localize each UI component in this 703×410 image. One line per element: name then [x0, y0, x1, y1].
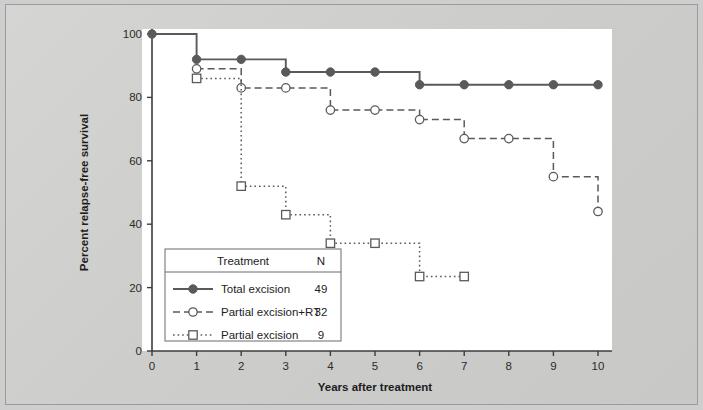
x-tick-label: 0 [149, 360, 155, 372]
legend-n-2: 9 [318, 329, 324, 341]
marker-open-circle [505, 134, 513, 142]
legend-n-0: 49 [315, 283, 328, 295]
marker-open-circle [594, 207, 602, 215]
x-tick-label: 8 [506, 360, 512, 372]
x-axis-title: Years after treatment [318, 381, 433, 393]
x-tick-label: 10 [592, 360, 605, 372]
marker-filled-circle [326, 68, 334, 76]
marker-open-square [371, 239, 379, 247]
marker-open-square [460, 272, 468, 280]
x-tick-label: 3 [283, 360, 289, 372]
legend-marker-filled-circle [189, 285, 197, 293]
x-tick-label: 6 [416, 360, 422, 372]
legend-marker-open-square [189, 331, 197, 339]
y-tick-label: 80 [129, 91, 142, 103]
x-tick-label: 5 [372, 360, 378, 372]
series-line-0 [152, 34, 598, 85]
marker-filled-circle [192, 55, 200, 63]
y-tick-label: 100 [123, 28, 142, 40]
x-tick-label: 9 [550, 360, 556, 372]
y-tick-label: 40 [129, 218, 142, 230]
marker-open-circle [549, 172, 557, 180]
x-tick-label: 4 [327, 360, 334, 372]
legend-label-0: Total excision [221, 283, 290, 295]
y-axis-title: Percent relapse-free survival [78, 114, 90, 271]
marker-open-circle [415, 115, 423, 123]
marker-open-square [192, 74, 200, 82]
marker-filled-circle [594, 81, 602, 89]
legend-marker-open-circle [189, 308, 197, 316]
marker-open-square [282, 210, 290, 218]
marker-filled-circle [549, 81, 557, 89]
marker-filled-circle [148, 30, 156, 38]
legend-label-2: Partial excision [221, 329, 298, 341]
marker-filled-circle [237, 55, 245, 63]
survival-chart: 020406080100012345678910Years after trea… [0, 0, 703, 410]
marker-open-square [237, 182, 245, 190]
marker-open-square [415, 272, 423, 280]
legend-n-1: 32 [315, 306, 328, 318]
marker-open-circle [460, 134, 468, 142]
x-tick-label: 7 [461, 360, 467, 372]
marker-filled-circle [460, 81, 468, 89]
marker-open-circle [326, 106, 334, 114]
y-tick-label: 0 [136, 345, 142, 357]
figure-container: 020406080100012345678910Years after trea… [0, 0, 703, 410]
marker-filled-circle [415, 81, 423, 89]
marker-filled-circle [371, 68, 379, 76]
marker-filled-circle [282, 68, 290, 76]
series-line-1 [197, 69, 598, 212]
marker-open-circle [192, 65, 200, 73]
marker-filled-circle [505, 81, 513, 89]
x-tick-label: 2 [238, 360, 244, 372]
legend-header-treatment: Treatment [217, 255, 270, 267]
legend-header-n: N [317, 255, 325, 267]
y-tick-label: 60 [129, 155, 142, 167]
x-tick-label: 1 [193, 360, 199, 372]
marker-open-circle [371, 106, 379, 114]
marker-open-square [326, 239, 334, 247]
y-tick-label: 20 [129, 282, 142, 294]
marker-open-circle [282, 84, 290, 92]
legend-label-1: Partial excision+RT [221, 306, 320, 318]
